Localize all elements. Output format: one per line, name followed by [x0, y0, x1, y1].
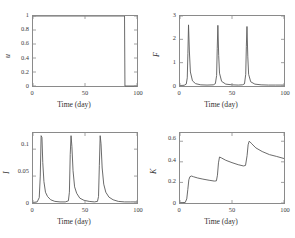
subplot-u: 1 0.8 0.6 0.4 0.2 0 0 50 100 u Time (day…: [0, 0, 148, 119]
xlabel-I: Time (day): [0, 217, 148, 226]
plot-area-K: [179, 132, 285, 204]
subplot-K: 0.6 0.4 0.2 0 0 50 100 K Time (day): [147, 119, 295, 238]
ytick-F-0: 0: [153, 83, 176, 89]
xtick-u-1: 50: [75, 90, 95, 96]
plot-area-u: [32, 15, 138, 87]
xtick-u-0: 0: [22, 90, 42, 96]
ytick-K-1: 0.2: [151, 178, 176, 184]
series-K: [180, 133, 286, 205]
plot-area-F: [179, 15, 285, 87]
subplot-I: 0.1 0.05 0 0 50 100 I Time (day): [0, 119, 148, 238]
ytick-u-5: 1: [6, 12, 29, 18]
plot-area-I: [32, 132, 138, 204]
xlabel-u: Time (day): [0, 100, 148, 109]
ylabel-u: u: [3, 54, 12, 58]
xtick-u-2: 100: [128, 90, 148, 96]
xtick-K-2: 100: [275, 207, 295, 213]
series-I: [33, 133, 139, 205]
ytick-u-3: 0.6: [6, 40, 29, 46]
xlabel-K: Time (day): [147, 217, 295, 226]
xtick-K-0: 0: [169, 207, 189, 213]
ytick-u-0: 0: [6, 83, 29, 89]
xtick-F-2: 100: [275, 90, 295, 96]
figure-canvas: 1 0.8 0.6 0.4 0.2 0 0 50 100 u Time (day…: [0, 0, 295, 238]
xtick-I-0: 0: [22, 207, 42, 213]
xtick-F-1: 50: [222, 90, 242, 96]
series-F: [180, 16, 286, 88]
xtick-F-0: 0: [169, 90, 189, 96]
ytick-F-3: 3: [153, 12, 176, 18]
xtick-I-2: 100: [128, 207, 148, 213]
ylabel-F: F: [152, 52, 161, 57]
series-u: [33, 16, 139, 88]
xtick-K-1: 50: [222, 207, 242, 213]
ytick-I-2: 0.1: [4, 141, 29, 147]
ytick-K-0: 0: [151, 200, 176, 206]
ytick-u-1: 0.2: [6, 69, 29, 75]
xtick-I-1: 50: [75, 207, 95, 213]
ytick-F-1: 1: [153, 59, 176, 65]
ytick-I-0: 0: [4, 200, 29, 206]
subplot-F: 3 2 1 0 0 50 100 F Time (day): [147, 0, 295, 119]
ytick-F-2: 2: [153, 35, 176, 41]
ytick-K-3: 0.6: [151, 135, 176, 141]
xlabel-F: Time (day): [147, 100, 295, 109]
ylabel-I: I: [2, 171, 11, 174]
ytick-K-2: 0.4: [151, 157, 176, 163]
ytick-u-4: 0.8: [6, 26, 29, 32]
ylabel-K: K: [149, 169, 158, 174]
